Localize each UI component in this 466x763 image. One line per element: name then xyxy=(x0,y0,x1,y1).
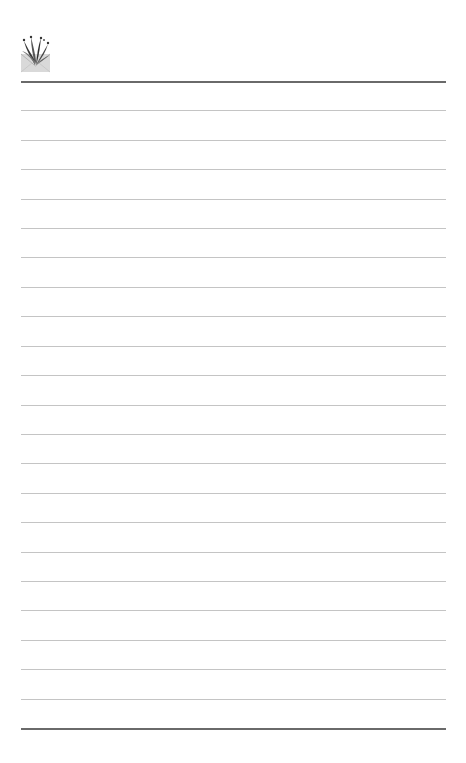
writing-line xyxy=(21,316,446,317)
writing-line xyxy=(21,287,446,288)
writing-line xyxy=(21,610,446,611)
writing-line xyxy=(21,493,446,494)
writing-line xyxy=(21,552,446,553)
writing-line xyxy=(21,169,446,170)
writing-line xyxy=(21,140,446,141)
top-rule xyxy=(21,81,446,83)
bottom-rule xyxy=(21,728,446,730)
writing-line xyxy=(21,434,446,435)
writing-line xyxy=(21,699,446,700)
writing-line xyxy=(21,669,446,670)
writing-line xyxy=(21,640,446,641)
writing-line xyxy=(21,463,446,464)
writing-line xyxy=(21,375,446,376)
writing-line xyxy=(21,199,446,200)
writing-line xyxy=(21,405,446,406)
writing-line xyxy=(21,228,446,229)
stationery-page xyxy=(0,0,466,763)
writing-line xyxy=(21,522,446,523)
writing-line xyxy=(21,346,446,347)
writing-line xyxy=(21,110,446,111)
writing-line xyxy=(21,581,446,582)
writing-line xyxy=(21,257,446,258)
envelope-bouquet-icon xyxy=(20,35,51,73)
